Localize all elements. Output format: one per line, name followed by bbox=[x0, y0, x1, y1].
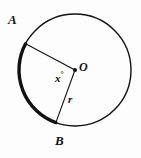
highlighted-arc-ab bbox=[19, 44, 56, 123]
center-point-dot bbox=[73, 68, 77, 72]
label-radius-r: r bbox=[68, 94, 72, 105]
label-angle-x: x° bbox=[55, 71, 64, 84]
label-center-o: O bbox=[79, 61, 88, 73]
radius-line-oa bbox=[26, 44, 75, 70]
label-point-a: A bbox=[8, 13, 17, 26]
label-point-b: B bbox=[55, 134, 64, 147]
circle-diagram-svg bbox=[0, 0, 141, 158]
degree-symbol: ° bbox=[61, 70, 64, 79]
geometry-figure: A O B r x° bbox=[0, 0, 141, 158]
